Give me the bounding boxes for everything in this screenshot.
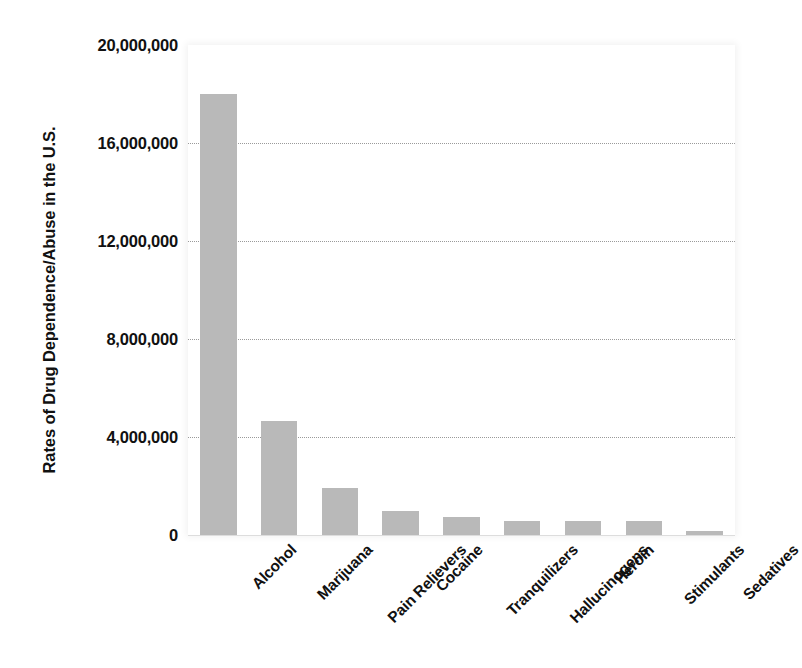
- x-axis-tick-label: Sedatives: [739, 541, 802, 604]
- bar: [626, 521, 662, 535]
- y-axis-tick-label: 0: [60, 526, 178, 545]
- bar: [504, 521, 540, 535]
- bar: [382, 511, 418, 536]
- x-axis-tick-labels: AlcoholMarijuanaPain RelieversCocaineTra…: [188, 535, 735, 668]
- y-axis-tick-labels: 04,000,0008,000,00012,000,00016,000,0002…: [60, 0, 178, 668]
- x-axis-tick-label: Marijuana: [314, 541, 377, 604]
- x-axis-tick-label: Tranquilizers: [503, 541, 581, 619]
- y-axis-tick-label: 20,000,000: [60, 36, 178, 55]
- y-axis-tick-label: 4,000,000: [60, 428, 178, 447]
- y-axis-tick-label: 16,000,000: [60, 134, 178, 153]
- gridline: [188, 339, 735, 340]
- bar: [261, 421, 297, 535]
- bar: [200, 94, 236, 535]
- bar: [565, 521, 601, 535]
- bar: [322, 488, 358, 535]
- x-axis-tick-label: Pain Relievers: [384, 541, 470, 627]
- y-axis-tick-label: 8,000,000: [60, 330, 178, 349]
- gridline: [188, 241, 735, 242]
- gridline: [188, 143, 735, 144]
- bar: [443, 517, 479, 535]
- y-axis-tick-label: 12,000,000: [60, 232, 178, 251]
- x-axis-tick-label: Alcohol: [249, 541, 301, 593]
- plot-area: [188, 45, 735, 535]
- x-axis-tick-label: Stimulants: [680, 541, 747, 608]
